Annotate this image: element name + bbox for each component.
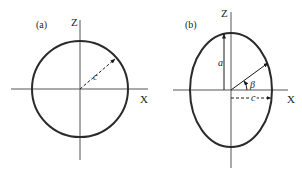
x-axis-label: X [140, 93, 148, 105]
panel-b: (b) Z X a c β [173, 7, 295, 168]
beta-angle-arc [244, 81, 247, 90]
panel-a: (a) Z X c [11, 16, 148, 160]
panel-label: (b) [185, 19, 197, 31]
panel-label: (a) [36, 19, 47, 31]
radius-label-c: c [93, 71, 98, 82]
semi-axis-label-c: c [251, 92, 256, 103]
x-axis-label: X [287, 93, 295, 105]
angle-label-beta: β [249, 79, 255, 90]
semi-axis-label-a: a [218, 57, 223, 68]
radius-arrow [80, 59, 115, 89]
z-axis-label: Z [221, 7, 228, 19]
figure-diagram: (a) Z X c (b) Z X a c β [0, 0, 302, 176]
z-axis-label: Z [71, 16, 78, 28]
